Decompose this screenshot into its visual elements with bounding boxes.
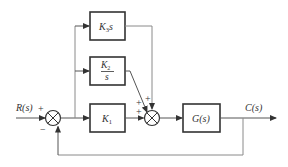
input-label: R(s): [15, 102, 33, 114]
controller-summer-plus-2: +: [145, 93, 151, 104]
controller-summer-plus-3: +: [136, 106, 142, 117]
svg-text:K3s: K3s: [98, 21, 113, 33]
plant-block: G(s): [183, 104, 220, 132]
integral-gain-block: K2 s: [90, 57, 125, 85]
block-diagram: R(s) + − K3s K2 s K1 +: [0, 0, 288, 167]
integral-gain-denominator: s: [105, 72, 109, 82]
error-summing-junction: [46, 111, 61, 126]
derivative-gain-block: K3s: [90, 12, 125, 40]
error-summer-plus-sign: +: [38, 103, 44, 114]
controller-summing-junction: [145, 111, 160, 126]
error-summer-minus-sign: −: [40, 124, 46, 135]
plant-label: G(s): [192, 113, 210, 125]
output-label: C(s): [245, 102, 263, 114]
proportional-gain-block: K1: [90, 104, 125, 132]
